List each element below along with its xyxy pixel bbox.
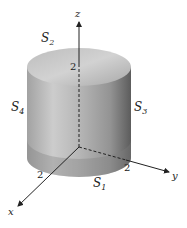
cylinder-diagram: z y x 2 2 2 S2 S4 S3 S1 — [0, 0, 187, 228]
surface-label-s4: S4 — [11, 100, 24, 116]
y-tick-2: 2 — [124, 162, 130, 173]
z-tick-2: 2 — [70, 61, 76, 72]
surface-label-s2: S2 — [41, 31, 54, 47]
surface-label-s3: S3 — [134, 100, 147, 116]
surface-label-s1: S1 — [93, 176, 106, 192]
x-axis-label: x — [8, 206, 14, 217]
y-axis — [126, 160, 169, 172]
y-axis-label: y — [171, 170, 178, 181]
x-tick-2: 2 — [37, 169, 43, 180]
z-axis-label: z — [74, 8, 81, 19]
